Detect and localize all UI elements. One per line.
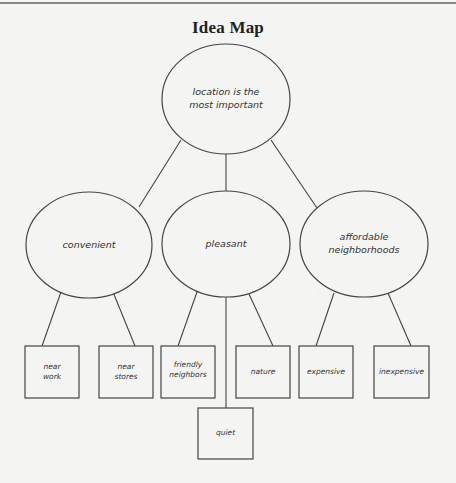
near-work-label: near work — [25, 346, 79, 398]
pleasant-label: pleasant — [166, 229, 286, 259]
connector-affordable-expensive — [316, 293, 334, 346]
expensive-label: expensive — [299, 346, 353, 398]
connector-pleasant-friendly — [178, 292, 197, 346]
connector-root-convenient — [139, 140, 181, 207]
connector-pleasant-nature — [249, 294, 273, 346]
connector-convenient-near-work — [42, 292, 61, 346]
connector-root-affordable — [271, 140, 317, 208]
affordable-label: affordable neighborhoods — [304, 224, 424, 264]
connector-affordable-inexpensive — [388, 293, 411, 346]
inexpensive-label: inexpensive — [374, 346, 429, 398]
near-stores-label: near stores — [99, 346, 153, 398]
friendly-neighbors-label: friendly neighbors — [161, 344, 215, 396]
nature-label: nature — [236, 346, 290, 398]
idea-map-canvas: Idea Map — [0, 0, 456, 483]
quiet-label: quiet — [198, 408, 253, 459]
connector-convenient-near-stores — [113, 292, 135, 346]
root-label: location is the most important — [166, 78, 286, 120]
convenient-label: convenient — [29, 230, 149, 260]
